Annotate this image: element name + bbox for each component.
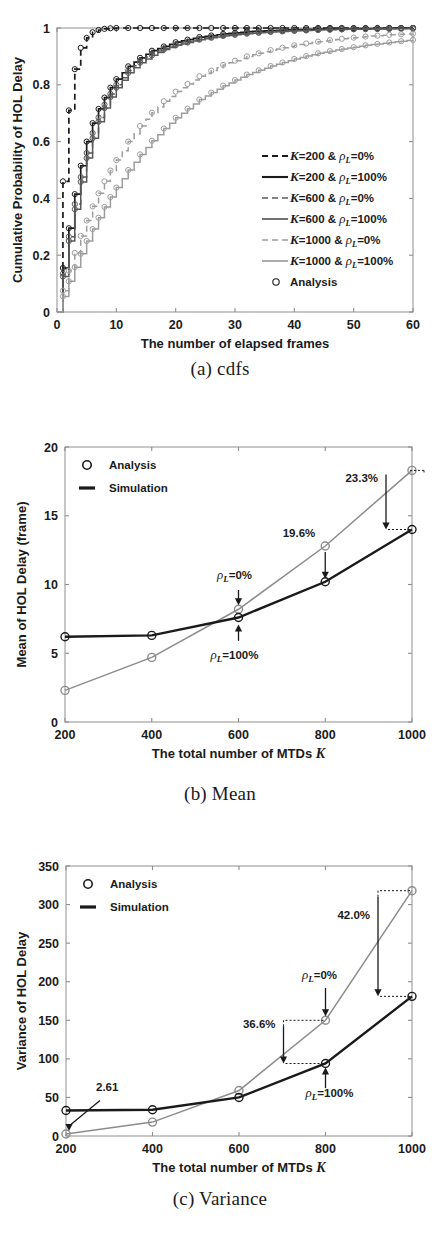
legend-item: K=200 & ρL=0% — [262, 148, 374, 165]
cdf-curves — [57, 25, 416, 312]
annotation-arrow-261 — [65, 1101, 100, 1131]
annotation-rho-0: ρL=0% — [216, 567, 252, 584]
legend-item: K=600 & ρL=0% — [262, 190, 374, 207]
svg-text:60: 60 — [406, 318, 420, 332]
legend-label: K=200 & ρL=100% — [289, 169, 387, 186]
legend-label: Simulation — [110, 901, 169, 913]
svg-text:50: 50 — [45, 1091, 59, 1105]
y-axis-title: Mean of HOL Delay (frame) — [14, 502, 29, 668]
svg-text:250: 250 — [38, 937, 59, 951]
legend-label: K=600 & ρL=0% — [289, 190, 374, 207]
svg-text:1000: 1000 — [398, 728, 426, 742]
svg-text:ρL=100%: ρL=100% — [210, 647, 259, 664]
annotation-arrow-366 — [280, 1026, 287, 1063]
annotation-rho-0: ρL=0% — [301, 967, 337, 984]
figure-c-caption: (c) Variance — [0, 1188, 440, 1210]
svg-text:600: 600 — [228, 728, 249, 742]
x-tick-labels: 0102030405060 — [54, 318, 420, 332]
y-axis-title: Cumulative Probability of HOL Delay — [10, 56, 25, 283]
legend: AnalysisSimulation — [80, 878, 169, 913]
svg-text:5: 5 — [51, 647, 58, 661]
legend-item: K=1000 & ρL=100% — [262, 253, 393, 270]
svg-text:300: 300 — [38, 898, 59, 912]
svg-text:150: 150 — [38, 1014, 59, 1028]
svg-text:200: 200 — [38, 975, 59, 989]
svg-text:0: 0 — [54, 318, 61, 332]
y-tick-labels: 00.20.40.60.81 — [33, 22, 50, 320]
annotation-arrow-rho0 — [235, 590, 242, 605]
annotation-arrow-196 — [322, 552, 329, 579]
svg-text:1000: 1000 — [398, 1142, 426, 1156]
annotation-36-6: 36.6% — [243, 1018, 276, 1030]
svg-text:0.2: 0.2 — [33, 249, 50, 263]
legend-label: K=1000 & ρL=0% — [289, 232, 380, 249]
legend-item: K=200 & ρL=100% — [262, 169, 387, 186]
annotation-rho-100: ρL=100% — [305, 1085, 354, 1102]
legend-label: K=1000 & ρL=100% — [289, 253, 393, 270]
svg-text:40: 40 — [287, 318, 301, 332]
svg-text:ρL=0%: ρL=0% — [216, 567, 252, 584]
svg-text:10: 10 — [44, 578, 58, 592]
x-axis-title: The total number of MTDs K — [152, 746, 327, 761]
svg-text:10: 10 — [109, 318, 123, 332]
annotation-arrow-rho100 — [322, 1067, 329, 1088]
series-line — [65, 530, 412, 637]
svg-text:350: 350 — [38, 860, 59, 874]
annotation-arrow-233 — [382, 474, 389, 529]
annotation-23-3: 23.3% — [345, 472, 378, 484]
legend-label: Analysis — [109, 459, 156, 471]
svg-text:800: 800 — [315, 728, 336, 742]
variance-plot: 2004006008001000050100150200250300350The… — [0, 830, 440, 1185]
data-series — [62, 887, 416, 1138]
svg-text:50: 50 — [347, 318, 361, 332]
svg-text:ρL=0%: ρL=0% — [301, 967, 337, 984]
legend-circle-marker — [83, 461, 91, 469]
svg-text:ρL=100%: ρL=100% — [305, 1085, 354, 1102]
svg-text:0: 0 — [51, 716, 58, 730]
legend-item: K=1000 & ρL=0% — [262, 232, 380, 249]
x-tick-labels: 2004006008001000 — [55, 728, 426, 742]
svg-text:0.4: 0.4 — [33, 192, 50, 206]
annotation-rho-100: ρL=100% — [210, 647, 259, 664]
legend-circle-marker — [273, 279, 279, 285]
figure-a-cdfs: 010203040506000.20.40.60.81The number of… — [0, 0, 440, 400]
legend-label: K=600 & ρL=100% — [289, 211, 387, 228]
svg-text:400: 400 — [142, 1142, 163, 1156]
x-tick-labels: 2004006008001000 — [56, 1142, 426, 1156]
cdf-plot: 010203040506000.20.40.60.81The number of… — [0, 0, 440, 355]
legend-label: K=200 & ρL=0% — [289, 148, 374, 165]
legend: K=200 & ρL=0%K=200 & ρL=100%K=600 & ρL=0… — [262, 148, 393, 288]
y-axis-title: Variance of HOL Delay — [14, 931, 29, 1070]
annotation-19-6: 19.6% — [283, 527, 316, 539]
svg-text:0: 0 — [43, 306, 50, 320]
svg-text:0.8: 0.8 — [33, 78, 50, 92]
svg-text:400: 400 — [141, 728, 162, 742]
legend-item: K=600 & ρL=100% — [262, 211, 387, 228]
svg-text:1: 1 — [43, 22, 50, 36]
figure-a-caption: (a) cdfs — [0, 358, 440, 380]
annotation-arrow-rho100 — [235, 624, 242, 641]
svg-text:15: 15 — [44, 509, 58, 523]
figure-b-mean: 200400600800100005101520The total number… — [0, 400, 440, 830]
svg-text:0: 0 — [52, 1130, 59, 1144]
y-tick-labels: 050100150200250300350 — [38, 860, 59, 1144]
figure-b-caption: (b) Mean — [0, 783, 440, 805]
svg-text:200: 200 — [55, 728, 76, 742]
figure-c-variance: 2004006008001000050100150200250300350The… — [0, 830, 440, 1237]
x-axis-title: The number of elapsed frames — [141, 336, 330, 351]
legend-label: Simulation — [109, 482, 168, 494]
svg-text:200: 200 — [56, 1142, 77, 1156]
mean-plot: 200400600800100005101520The total number… — [0, 400, 440, 780]
svg-text:100: 100 — [38, 1052, 59, 1066]
svg-text:20: 20 — [169, 318, 183, 332]
x-axis-title: The total number of MTDs K — [152, 1160, 327, 1175]
annotation-42-0: 42.0% — [337, 909, 370, 921]
annotation-arrow-rho0 — [322, 988, 329, 1016]
svg-text:600: 600 — [229, 1142, 250, 1156]
y-tick-labels: 05101520 — [44, 441, 58, 730]
analysis-markers — [60, 31, 415, 293]
legend-item: Analysis — [273, 276, 338, 288]
svg-text:20: 20 — [44, 441, 58, 455]
annotation-2-61: 2.61 — [96, 1081, 119, 1093]
legend-label: Analysis — [290, 276, 337, 288]
